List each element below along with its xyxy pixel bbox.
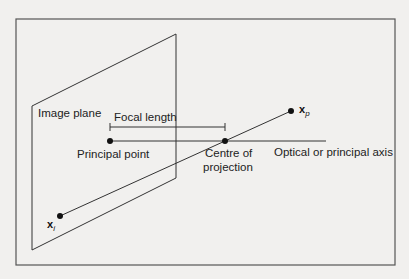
principal-point-label: Principal point [77,148,149,161]
optical-axis-label: Optical or principal axis [274,146,393,159]
xi-label: xi [47,218,55,235]
xp-label: xp [299,103,310,120]
centre-of-projection-label-1: Centre of [205,147,252,160]
xi-subscript: i [53,224,55,233]
centre-of-projection-dot [222,138,228,144]
xi-point-dot [57,213,63,219]
focal-length-label: Focal length [114,111,177,124]
xp-point-dot [288,108,294,114]
pinhole-camera-diagram [0,0,409,279]
xp-subscript: p [305,109,309,118]
diagram-frame [16,19,395,265]
centre-of-projection-label-2: projection [203,161,253,174]
principal-point-dot [107,138,113,144]
image-plane-label: Image plane [38,107,101,120]
